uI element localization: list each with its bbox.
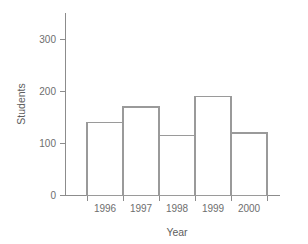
y-axis-title: Students: [15, 83, 27, 124]
bar-1999: [195, 96, 231, 195]
chart-canvas: 300 200 100 0 Students 1996 1997 1998 19…: [0, 0, 308, 244]
y-tick-label-300: 300: [39, 34, 56, 45]
x-tick-label-1996: 1996: [94, 203, 117, 214]
bar-2000: [231, 133, 267, 196]
x-tick-label-1997: 1997: [130, 203, 153, 214]
bar-chart-figure: 300 200 100 0 Students 1996 1997 1998 19…: [0, 0, 308, 244]
x-tick-label-2000: 2000: [238, 203, 261, 214]
y-tick-label-0: 0: [50, 190, 56, 201]
y-tick-label-100: 100: [39, 138, 56, 149]
x-axis-title: Year: [166, 226, 188, 238]
bar-1997: [123, 107, 159, 196]
bar-1996: [87, 123, 123, 196]
y-tick-label-200: 200: [39, 86, 56, 97]
x-tick-label-1998: 1998: [166, 203, 189, 214]
bar-1998: [159, 136, 195, 196]
x-tick-label-1999: 1999: [202, 203, 225, 214]
